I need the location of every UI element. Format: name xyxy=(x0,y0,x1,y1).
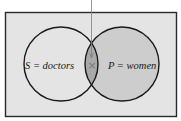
venn-diagram: S = doctors P = women × xyxy=(0,0,181,121)
intersection-mark-icon: × xyxy=(88,59,97,72)
set-p-label: P = women xyxy=(107,60,156,71)
set-s-label: S = doctors xyxy=(25,60,74,71)
